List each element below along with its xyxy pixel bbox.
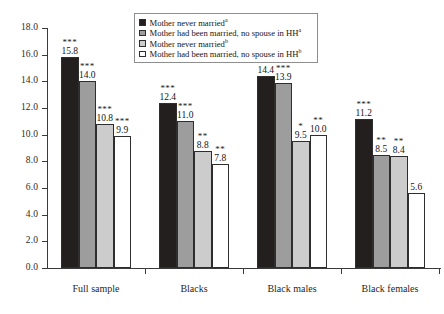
bar xyxy=(159,103,177,268)
clipped-caption-text: Mother never married Mother had been mar… xyxy=(96,0,319,1)
x-axis-tick xyxy=(341,269,342,274)
bar-significance-marker: *** xyxy=(351,101,377,108)
chart-legend: Mother never marriedaMother had been mar… xyxy=(134,13,318,63)
y-axis-tick-label: 2.0 xyxy=(4,236,38,246)
legend-rows: Mother never marriedaMother had been mar… xyxy=(139,17,313,59)
bar-significance-marker: *** xyxy=(57,39,83,46)
bar-value-label: 11.2 xyxy=(351,108,377,118)
legend-item[interactable]: Mother never marriedb xyxy=(139,38,313,49)
x-axis-tick xyxy=(145,269,146,274)
bar-value-label: 14.0 xyxy=(75,70,101,80)
bar xyxy=(292,141,310,268)
legend-item-label: Mother had been married, no spouse in HH… xyxy=(150,48,302,59)
bar xyxy=(390,156,408,268)
bar-significance-marker: ** xyxy=(386,138,412,145)
bar xyxy=(310,135,328,268)
x-axis-category-label: Black males xyxy=(243,283,341,294)
y-axis-tick xyxy=(42,28,47,29)
y-axis-tick xyxy=(42,55,47,56)
y-axis-tick-label: 16.0 xyxy=(4,50,38,60)
legend-item[interactable]: Mother never marrieda xyxy=(139,17,313,28)
bar-significance-marker: *** xyxy=(173,103,199,110)
legend-item[interactable]: Mother had been married, no spouse in HH… xyxy=(139,49,313,60)
bar-significance-marker: *** xyxy=(271,65,297,72)
bar-significance-marker: ** xyxy=(190,133,216,140)
bar xyxy=(408,193,426,268)
y-axis-tick xyxy=(42,161,47,162)
legend-item-label: Mother never marriedb xyxy=(150,38,228,49)
y-axis-tick-label: 14.0 xyxy=(4,76,38,86)
bar xyxy=(275,83,293,268)
legend-footnote-marker: b xyxy=(298,48,301,54)
y-axis-line xyxy=(47,28,48,268)
y-axis-tick xyxy=(42,268,47,269)
bar-value-label: 13.9 xyxy=(271,72,297,82)
bar-value-label: 10.0 xyxy=(306,124,332,134)
legend-item-label: Mother never marrieda xyxy=(150,17,228,28)
legend-footnote-marker: a xyxy=(225,17,228,23)
bar xyxy=(61,57,79,268)
y-axis-tick xyxy=(42,135,47,136)
bar-value-label: 15.8 xyxy=(57,46,83,56)
bar xyxy=(96,124,114,268)
bar xyxy=(114,136,132,268)
x-axis-tick xyxy=(243,269,244,274)
y-axis-tick-label: 10.0 xyxy=(4,130,38,140)
y-axis-tick-label: 12.0 xyxy=(4,103,38,113)
bar-value-label: 12.4 xyxy=(155,92,181,102)
bar xyxy=(194,151,212,268)
bar xyxy=(212,164,230,268)
bar xyxy=(373,155,391,268)
bar-significance-marker: *** xyxy=(155,85,181,92)
y-axis-tick-label: 8.0 xyxy=(4,156,38,166)
bar-value-label: 7.8 xyxy=(208,153,234,163)
y-axis-tick xyxy=(42,241,47,242)
bar-significance-marker: *** xyxy=(75,63,101,70)
x-axis-category-label: Full sample xyxy=(47,283,145,294)
x-axis-category-label: Black females xyxy=(341,283,439,294)
legend-footnote-marker: b xyxy=(225,38,228,44)
y-axis-tick xyxy=(42,81,47,82)
bar-significance-marker: *** xyxy=(110,118,136,125)
bar-value-label: 8.4 xyxy=(386,145,412,155)
legend-swatch-icon xyxy=(139,19,146,26)
x-axis-line xyxy=(47,268,441,269)
legend-swatch-icon xyxy=(139,30,146,37)
bar xyxy=(257,76,275,268)
y-axis-tick-label: 18.0 xyxy=(4,23,38,33)
y-axis-tick-label: 6.0 xyxy=(4,183,38,193)
x-axis-category-label: Blacks xyxy=(145,283,243,294)
y-axis-tick xyxy=(42,108,47,109)
clipped-caption-strip: Mother never married Mother had been mar… xyxy=(0,0,444,7)
bar-value-label: 11.0 xyxy=(173,110,199,120)
bar-significance-marker: ** xyxy=(208,146,234,153)
y-axis-tick xyxy=(42,215,47,216)
bar-value-label: 9.9 xyxy=(110,125,136,135)
y-axis-tick-label: 0.0 xyxy=(4,263,38,273)
y-axis-tick-label: 4.0 xyxy=(4,210,38,220)
legend-swatch-icon xyxy=(139,40,146,47)
legend-item-label: Mother had been married, no spouse in HH… xyxy=(150,27,302,38)
legend-footnote-marker: a xyxy=(298,27,301,33)
y-axis-tick xyxy=(42,188,47,189)
legend-item[interactable]: Mother had been married, no spouse in HH… xyxy=(139,28,313,39)
legend-swatch-icon xyxy=(139,51,146,58)
x-axis-tick xyxy=(439,269,440,274)
bar-significance-marker: *** xyxy=(92,106,118,113)
figure-container: Mother never married Mother had been mar… xyxy=(0,0,444,314)
bar-significance-marker: ** xyxy=(306,117,332,124)
bar-value-label: 5.6 xyxy=(404,182,430,192)
